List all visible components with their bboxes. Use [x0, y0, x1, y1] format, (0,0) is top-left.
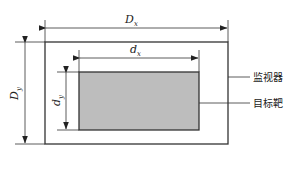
dimension-diagram: D x d x D y d y 监视器 目标靶: [0, 0, 289, 175]
monitor-label: 监视器: [253, 71, 283, 83]
target-label: 目标靶: [253, 97, 283, 109]
dy-label-main: d: [50, 99, 63, 106]
dx-outer-dimension: D x: [45, 13, 228, 42]
target-rect: [79, 72, 199, 130]
dy-outer-dimension: D y: [8, 42, 45, 144]
dx-label-sub: x: [137, 50, 141, 58]
monitor-callout: 监视器: [228, 71, 283, 83]
Dy-label-main: D: [8, 91, 21, 101]
dx-label-main: d: [130, 43, 137, 56]
Dx-label-main: D: [124, 13, 134, 26]
Dx-label-sub: x: [134, 20, 138, 28]
Dy-label-sub: y: [15, 86, 23, 92]
